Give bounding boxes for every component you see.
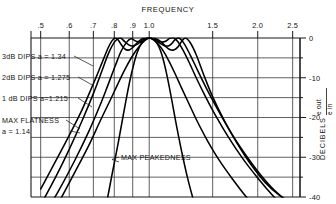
curve-3 — [41, 38, 293, 204]
curve-2 — [41, 38, 293, 204]
x-tick-label: .9 — [129, 21, 136, 30]
x-tick-label: 2.5 — [287, 21, 298, 30]
chart-title: FREQUENCY — [141, 5, 194, 14]
y-tick-label: -10 — [309, 74, 320, 83]
x-tick-label: .6 — [66, 21, 73, 30]
annotation-max-flatness: MAX FLATNESS — [2, 116, 59, 125]
curve-4 — [106, 38, 203, 204]
x-axis-ticks: .5.6.7.8.91.01.52.02.5 — [31, 21, 298, 38]
curve-1 — [41, 38, 293, 204]
curve-0 — [41, 38, 293, 203]
x-tick-label: .8 — [111, 21, 118, 30]
y-tick-label: 0 — [309, 34, 313, 43]
annotation-1db-dips: 1 dB DIPS a=1.215 — [2, 94, 68, 103]
y-axis-label-decibels: DECIBELS — [318, 117, 327, 160]
x-tick-label: .5 — [37, 21, 44, 30]
fraction-numerator: e out — [315, 99, 322, 115]
data-curves — [41, 38, 293, 204]
x-tick-label: 1.5 — [207, 21, 218, 30]
annotation-leaders — [66, 56, 119, 162]
annotation-2db-dips: 2dB DIPS a = 1.275 — [2, 73, 70, 82]
annotation-max-flatness-a: a = 1.14 — [2, 127, 30, 136]
annotation-max-peakedness: MAX PEAKEDNESS — [121, 153, 191, 162]
x-tick-label: 2.0 — [252, 21, 263, 30]
annotation-3db-dips: 3dB DIPS a = 1.34 — [2, 52, 66, 61]
y-tick-label: -40 — [309, 193, 320, 202]
x-tick-label: .7 — [90, 21, 97, 30]
filter-response-chart: FREQUENCY .5.6.7.8.91.01.52.02.5 0-10-20… — [0, 0, 336, 204]
fraction-denominator: e in — [326, 103, 333, 115]
y-axis-label-fraction: e out e in — [315, 88, 333, 115]
x-tick-label: 1.0 — [144, 21, 155, 30]
chart-root: FREQUENCY .5.6.7.8.91.01.52.02.5 0-10-20… — [0, 0, 336, 204]
